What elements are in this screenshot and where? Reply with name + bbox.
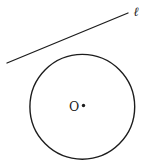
line-l-label: ℓ	[133, 4, 138, 19]
geometry-diagram-canvas: ℓ O	[0, 0, 144, 166]
geometry-figure: ℓ O	[0, 0, 144, 166]
line-l	[7, 13, 128, 63]
circle	[30, 54, 135, 159]
center-point-dot	[82, 104, 85, 107]
center-point-label: O	[69, 99, 79, 114]
